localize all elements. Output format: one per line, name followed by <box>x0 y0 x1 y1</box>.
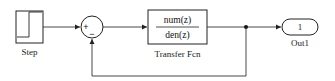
outport-label: Out1 <box>291 38 309 48</box>
outport-number: 1 <box>298 22 303 32</box>
tf-denominator: den(z) <box>165 30 189 41</box>
transfer-fcn-label: Transfer Fcn <box>155 49 201 59</box>
sum-block[interactable]: + − <box>81 16 103 39</box>
step-block[interactable] <box>16 11 43 43</box>
sum-plus-sign: + <box>83 22 88 32</box>
block-diagram-canvas: Step + − num(z) den(z) Transfer Fcn 1 Ou… <box>0 0 335 81</box>
step-label: Step <box>21 47 38 57</box>
outport-block[interactable]: 1 <box>282 19 318 35</box>
transfer-fcn-block[interactable]: num(z) den(z) <box>148 10 207 44</box>
sum-minus-sign: − <box>89 29 94 39</box>
tf-numerator: num(z) <box>164 15 191 26</box>
